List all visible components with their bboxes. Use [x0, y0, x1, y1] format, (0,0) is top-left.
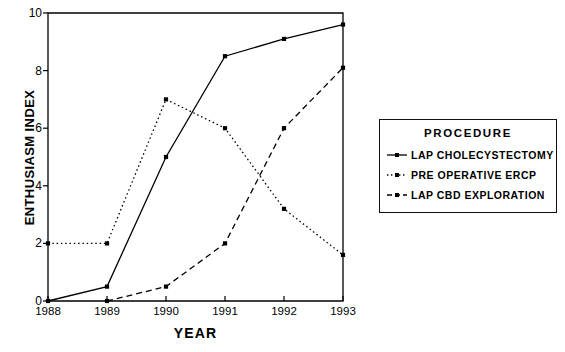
legend-item-label: LAP CBD EXPLORATION — [411, 189, 545, 201]
legend-line-dotted-icon — [387, 170, 407, 180]
legend-line-dashed-icon — [387, 190, 407, 200]
legend-title: PROCEDURE — [380, 127, 556, 139]
legend-item-pre-operative-ercp: PRE OPERATIVE ERCP — [380, 165, 556, 185]
legend-line-solid-icon — [387, 150, 407, 160]
legend-item-lap-cholecystectomy: LAP CHOLECYSTECTOMY — [380, 145, 556, 165]
axis-frame — [48, 13, 343, 301]
data-series-group — [46, 22, 345, 303]
legend-box: PROCEDURE LAP CHOLECYSTECTOMY PRE OPERAT… — [379, 119, 557, 213]
legend-item-lap-cbd-exploration: LAP CBD EXPLORATION — [380, 185, 556, 205]
axis-ticks — [43, 13, 343, 301]
chart-figure: ENTHUSIASM INDEX 0 2 4 6 8 10 1988 1989 … — [0, 0, 565, 352]
legend-item-label: PRE OPERATIVE ERCP — [411, 169, 537, 181]
legend-item-label: LAP CHOLECYSTECTOMY — [411, 149, 554, 161]
